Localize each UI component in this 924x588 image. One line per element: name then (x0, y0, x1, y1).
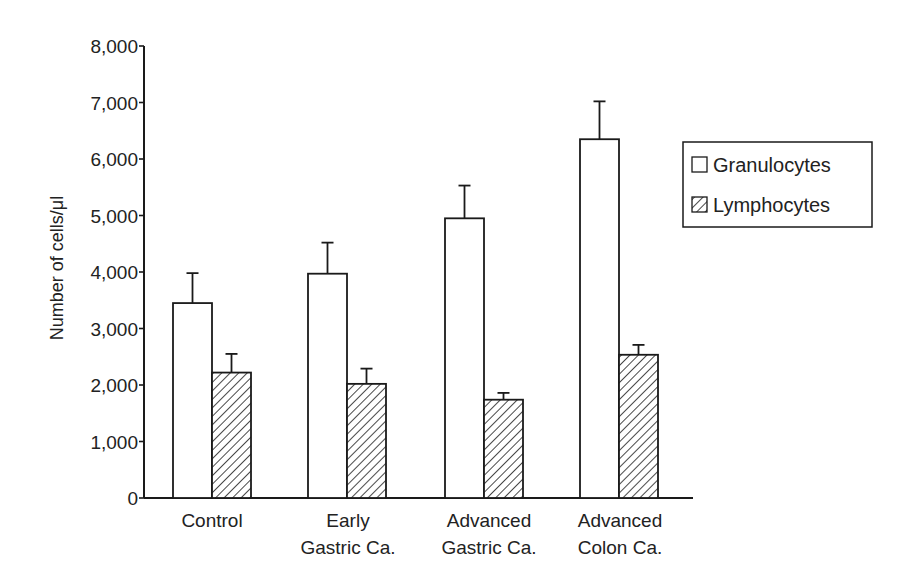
y-tick-label: 8,000 (90, 36, 138, 57)
legend-label-granulocytes: Granulocytes (713, 154, 831, 176)
bar-lymphocytes (347, 384, 386, 498)
bar-chart: Number of cells/μl 01,0002,0003,0004,000… (0, 0, 924, 588)
legend-label-lymphocytes: Lymphocytes (713, 194, 830, 216)
y-tick-label: 3,000 (90, 319, 138, 340)
bar-group (308, 243, 386, 498)
y-tick-label: 4,000 (90, 262, 138, 283)
category-label: Colon Ca. (578, 537, 663, 558)
category-label: Advanced (447, 510, 532, 531)
bar-group (445, 186, 523, 498)
category-label: Gastric Ca. (300, 537, 395, 558)
category-label: Early (326, 510, 370, 531)
y-tick-label: 2,000 (90, 375, 138, 396)
legend-swatch-open (692, 157, 707, 172)
legend: Granulocytes Lymphocytes (683, 142, 872, 227)
bar-lymphocytes (212, 373, 251, 498)
category-label: Control (181, 510, 242, 531)
y-axis: 01,0002,0003,0004,0005,0006,0007,0008,00… (90, 36, 144, 509)
bar-granulocytes (445, 218, 484, 498)
y-axis-label: Number of cells/μl (47, 196, 67, 340)
y-tick-label: 6,000 (90, 149, 138, 170)
bar-granulocytes (308, 274, 347, 498)
category-label: Gastric Ca. (441, 537, 536, 558)
bar-lymphocytes (619, 355, 658, 498)
bar-granulocytes (173, 303, 212, 498)
legend-swatch-hatched (692, 197, 707, 212)
y-tick-label: 0 (127, 488, 138, 509)
bar-granulocytes (580, 139, 619, 498)
bar-group (173, 273, 251, 498)
bars (173, 101, 658, 498)
y-tick-label: 5,000 (90, 206, 138, 227)
y-tick-label: 1,000 (90, 432, 138, 453)
y-tick-label: 7,000 (90, 93, 138, 114)
category-label: Advanced (578, 510, 663, 531)
bar-lymphocytes (484, 400, 523, 498)
category-labels: ControlEarlyGastric Ca.AdvancedGastric C… (181, 510, 662, 558)
y-axis-title: Number of cells/μl (47, 196, 67, 340)
bar-group (580, 101, 658, 498)
